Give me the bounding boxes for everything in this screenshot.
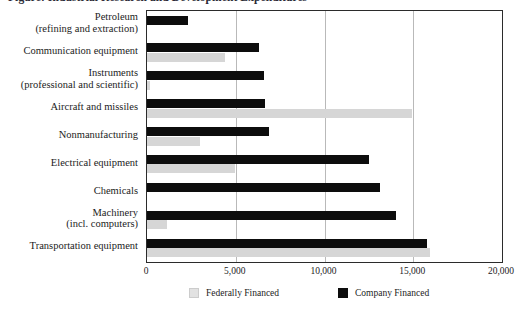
gridline <box>413 11 414 262</box>
bar-federally-financed <box>147 109 412 118</box>
bar-federally-financed <box>147 81 150 90</box>
x-axis-tick-label: 20,000 <box>488 266 514 276</box>
bar-company-financed <box>147 239 427 248</box>
category-label-line1: Communication equipment <box>23 45 138 56</box>
category-axis-labels: Petroleum(refining and extraction)Commun… <box>0 10 142 263</box>
legend-label: Company Financed <box>355 288 429 298</box>
legend-swatch-company <box>338 288 348 298</box>
plot-area <box>146 10 503 263</box>
legend-label: Federally Financed <box>206 288 279 298</box>
category-label: Petroleum(refining and extraction) <box>35 11 138 34</box>
category-label: Transportation equipment <box>30 240 138 252</box>
category-label: Communication equipment <box>23 45 138 57</box>
category-label-line2: (professional and scientific) <box>21 79 138 91</box>
bar-company-financed <box>147 43 259 52</box>
bar-federally-financed <box>147 248 430 257</box>
x-axis-tick-label: 0 <box>144 266 149 276</box>
category-label-line1: Nonmanufacturing <box>59 129 138 140</box>
chart-title: Figure: Industrial Research and Developm… <box>8 0 307 3</box>
bar-company-financed <box>147 71 264 80</box>
bar-company-financed <box>147 99 265 108</box>
category-label-line1: Machinery <box>93 207 138 218</box>
legend-item[interactable]: Company Financed <box>338 288 429 298</box>
category-label: Aircraft and missiles <box>51 101 138 113</box>
legend-swatch-federal <box>189 288 199 298</box>
category-label-line1: Chemicals <box>94 185 138 196</box>
bar-company-financed <box>147 16 188 25</box>
x-axis-tick-labels: 05,00010,00015,00020,000 <box>0 266 521 280</box>
category-label: Nonmanufacturing <box>59 129 138 141</box>
gridline <box>325 11 326 262</box>
bar-federally-financed <box>147 53 225 62</box>
category-label: Chemicals <box>94 185 138 197</box>
x-axis-tick-label: 15,000 <box>399 266 425 276</box>
bar-company-financed <box>147 183 380 192</box>
bar-company-financed <box>147 127 269 136</box>
bar-federally-financed <box>147 164 235 173</box>
x-axis-tick-label: 5,000 <box>224 266 245 276</box>
category-label-line2: (refining and extraction) <box>35 23 138 35</box>
bar-company-financed <box>147 211 396 220</box>
category-label-line1: Instruments <box>88 67 138 78</box>
category-label-line2: (incl. computers) <box>66 218 138 230</box>
category-label: Electrical equipment <box>51 157 138 169</box>
bar-federally-financed <box>147 137 200 146</box>
category-label: Machinery(incl. computers) <box>66 207 138 230</box>
x-axis-tick-label: 10,000 <box>310 266 336 276</box>
category-label-line1: Petroleum <box>95 11 138 22</box>
category-label-line1: Transportation equipment <box>30 240 138 251</box>
category-label-line1: Aircraft and missiles <box>51 101 138 112</box>
category-label: Instruments(professional and scientific) <box>21 67 138 90</box>
bar-company-financed <box>147 155 369 164</box>
chart-legend: Federally FinancedCompany Financed <box>0 288 521 304</box>
category-label-line1: Electrical equipment <box>51 157 138 168</box>
rd-expenditures-bar-chart: Figure: Industrial Research and Developm… <box>0 0 521 310</box>
bar-federally-financed <box>147 220 167 229</box>
legend-item[interactable]: Federally Financed <box>189 288 279 298</box>
